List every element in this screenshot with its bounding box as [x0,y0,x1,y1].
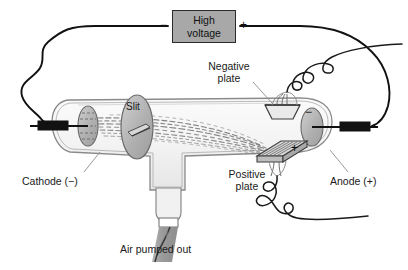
positive-plate-front-face [257,156,283,162]
cathode-terminal-block [38,121,68,130]
positive-plate-sign: + [291,142,298,154]
positive-plate-label: Positive plate [218,168,276,192]
coiled-wire-negative-plate [287,44,402,92]
leader-cathode [84,152,100,172]
positive-plate-label-line1: Positive [229,168,266,180]
high-voltage-label-line1: High [193,14,215,26]
negative-plate-label-line2: plate [218,72,241,84]
cathode-label: Cathode (−) [22,175,78,187]
negative-plate-label: Negative plate [198,60,260,84]
anode-terminal-block [340,122,370,131]
pump-collar [159,218,178,227]
leader-anode [330,150,348,172]
anode-label: Anode (+) [330,175,376,187]
positive-plate-label-line2: plate [236,180,259,192]
negative-plate-label-line1: Negative [208,60,249,72]
high-voltage-source[interactable]: High voltage [172,10,236,43]
high-voltage-label-line2: voltage [187,27,221,39]
negative-deflection-plate [265,92,300,119]
high-voltage-label: High voltage [173,14,235,40]
hv-negative-terminal-sign: − [160,19,167,31]
slit-label: Slit [126,101,140,113]
hv-positive-terminal-sign: + [240,19,247,31]
negative-plate-sign: − [305,106,312,118]
anode-electrode [301,108,378,146]
air-pumped-out-label: Air pumped out [120,243,191,255]
